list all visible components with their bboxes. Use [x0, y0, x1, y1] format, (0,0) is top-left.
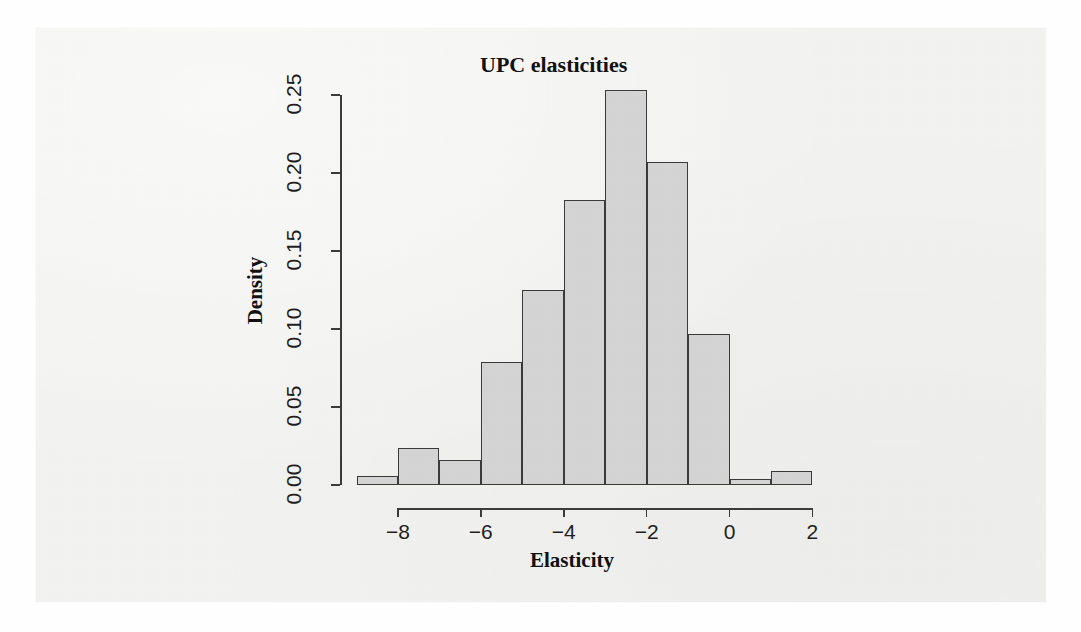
x-axis-tick-label: −8	[368, 520, 428, 544]
histogram-bar	[688, 334, 729, 485]
x-axis-line	[398, 508, 813, 510]
histogram-bar	[647, 162, 688, 485]
x-axis-tick-label: −4	[534, 520, 594, 544]
histogram-bar	[439, 460, 480, 485]
x-axis-tick-label: −6	[451, 520, 511, 544]
histogram-bar	[730, 479, 771, 485]
x-axis-tick	[480, 508, 482, 517]
y-axis-tick	[331, 172, 340, 174]
y-axis-line	[340, 95, 342, 485]
y-axis-tick	[331, 328, 340, 330]
y-axis-tick-label: 0.15	[282, 215, 306, 285]
x-axis-tick	[397, 508, 399, 517]
x-axis-title: Elasticity	[530, 548, 614, 573]
x-axis-tick-label: 2	[782, 520, 842, 544]
x-axis-tick	[563, 508, 565, 517]
x-axis-tick	[812, 508, 814, 517]
histogram-bar	[564, 200, 605, 485]
histogram-bar	[522, 290, 563, 485]
histogram-bar	[398, 448, 439, 485]
y-axis-title: Density	[243, 241, 268, 341]
screenshot-page: UPC elasticities Density Elasticity 0.00…	[0, 0, 1081, 632]
y-axis-tick	[331, 484, 340, 486]
y-axis-tick-label: 0.00	[282, 449, 306, 519]
y-axis-tick-label: 0.05	[282, 371, 306, 441]
x-axis-tick	[646, 508, 648, 517]
y-axis-tick-label: 0.10	[282, 293, 306, 363]
y-axis-tick	[331, 406, 340, 408]
y-axis-tick-label: 0.20	[282, 137, 306, 207]
histogram-bar	[771, 471, 812, 485]
y-axis-tick	[331, 250, 340, 252]
chart-title: UPC elasticities	[480, 52, 627, 78]
histogram-bar	[605, 90, 646, 485]
histogram-chart: UPC elasticities Density Elasticity 0.00…	[0, 0, 1081, 632]
histogram-bar	[481, 362, 522, 485]
y-axis-tick-label: 0.25	[282, 59, 306, 129]
histogram-bar	[357, 476, 398, 485]
x-axis-tick-label: 0	[700, 520, 760, 544]
x-axis-tick	[729, 508, 731, 517]
y-axis-tick	[331, 94, 340, 96]
x-axis-tick-label: −2	[617, 520, 677, 544]
